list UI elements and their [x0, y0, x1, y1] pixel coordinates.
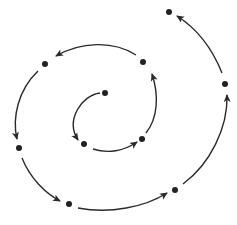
arrows-layer — [15, 16, 227, 210]
arrow-p4-to-p5 — [15, 71, 38, 139]
arrow-p1-to-p2 — [93, 142, 137, 151]
arrow-p5-to-p6 — [22, 158, 60, 201]
arrow-p0-to-p1 — [73, 93, 100, 140]
point-p9 — [166, 9, 172, 15]
point-p1 — [81, 141, 87, 147]
spiral-diagram — [0, 0, 237, 225]
arrow-p3-to-p4 — [56, 45, 136, 56]
point-p4 — [42, 61, 48, 67]
arrow-p7-to-p8 — [183, 95, 227, 184]
points-layer — [16, 9, 228, 207]
arrow-p6-to-p7 — [78, 193, 167, 210]
point-p7 — [172, 187, 178, 193]
point-p2 — [139, 136, 145, 142]
arrow-p2-to-p3 — [146, 74, 156, 133]
point-p8 — [222, 81, 228, 87]
point-p0 — [102, 90, 108, 96]
point-p6 — [66, 201, 72, 207]
arrow-p8-to-p9 — [177, 16, 222, 73]
point-p5 — [16, 145, 22, 151]
point-p3 — [140, 59, 146, 65]
